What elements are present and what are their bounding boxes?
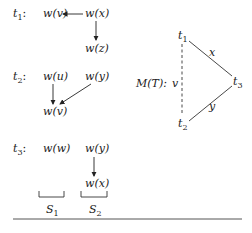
set-label-s1: S1: [46, 204, 59, 220]
edge-label-v: v: [172, 78, 178, 90]
node-w-y: w(y): [85, 71, 109, 83]
row-label-t3: t3:: [13, 143, 26, 159]
node-w-x: w(x): [85, 8, 109, 20]
edge-label-x: x: [209, 47, 215, 59]
node-w-u: w(u): [43, 71, 68, 83]
arrow-wy-to-wv: [60, 84, 91, 104]
graph-title: M(T):: [136, 78, 167, 90]
diagram-lines: [0, 0, 252, 233]
bracket-s2: [81, 191, 107, 197]
node-w-x-3: w(x): [85, 178, 109, 190]
graph-node-t1: t1: [178, 30, 188, 46]
set-label-s2: S2: [89, 204, 102, 220]
node-w-z: w(z): [85, 43, 109, 55]
row-label-t1: t1:: [13, 8, 26, 24]
edge-label-y: y: [209, 101, 215, 113]
node-w-y-3: w(y): [85, 143, 109, 155]
node-w-v: w(v): [43, 8, 67, 20]
node-w-w: w(w): [43, 143, 70, 155]
graph-node-t2: t2: [178, 118, 188, 134]
row-label-t2: t2:: [13, 71, 26, 87]
graph-node-t3: t3: [233, 76, 243, 92]
node-w-v-2: w(v): [43, 106, 67, 118]
bracket-s1: [39, 191, 64, 197]
